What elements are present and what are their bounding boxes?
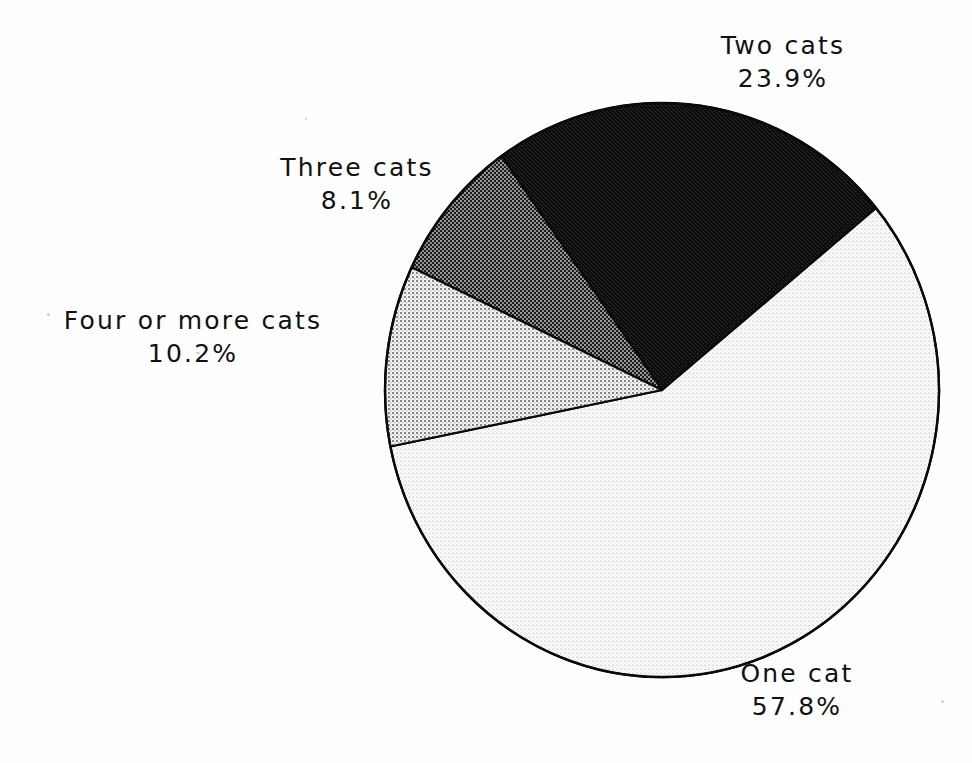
slice-label-one-cat-value: 57.8% bbox=[672, 691, 922, 724]
slice-label-three-cats: Three cats 8.1% bbox=[222, 152, 492, 217]
slice-label-one-cat: One cat 57.8% bbox=[672, 658, 922, 723]
slice-label-one-cat-name: One cat bbox=[672, 658, 922, 691]
slice-label-two-cats-name: Two cats bbox=[648, 30, 918, 63]
slice-label-four-or-more-cats-name: Four or more cats bbox=[28, 305, 358, 338]
scan-speck bbox=[305, 118, 307, 120]
scan-speck bbox=[941, 700, 944, 703]
pie-chart-figure: Two cats 23.9% Three cats 8.1% Four or m… bbox=[0, 0, 972, 763]
slice-label-two-cats: Two cats 23.9% bbox=[648, 30, 918, 95]
slice-label-three-cats-name: Three cats bbox=[222, 152, 492, 185]
slice-label-four-or-more-cats-value: 10.2% bbox=[28, 338, 358, 371]
slice-label-four-or-more-cats: Four or more cats 10.2% bbox=[28, 305, 358, 370]
slice-label-two-cats-value: 23.9% bbox=[648, 63, 918, 96]
slice-label-three-cats-value: 8.1% bbox=[222, 185, 492, 218]
pie-chart-svg bbox=[0, 0, 972, 763]
